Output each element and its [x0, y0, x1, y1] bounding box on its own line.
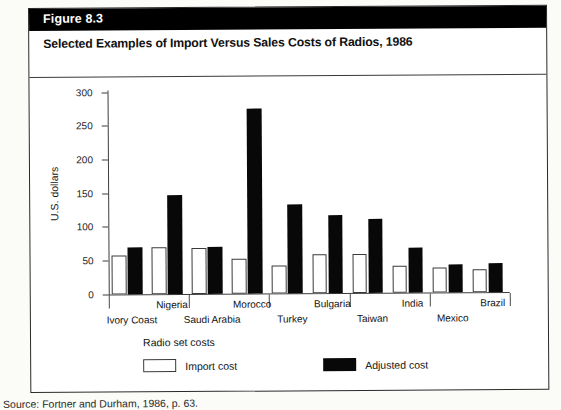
figure-title: Selected Examples of Import Versus Sales…: [43, 34, 493, 52]
legend-item-import: Import cost: [143, 359, 237, 373]
y-tick-50: 50: [103, 261, 109, 262]
y-tick-label: 100: [77, 221, 94, 232]
bar-nigeria-import: [152, 247, 167, 294]
x-label-taiwan: Taiwan: [357, 313, 388, 324]
group-separator: [510, 293, 511, 306]
figure-number-label: Figure 8.3: [43, 12, 103, 26]
source-caption: Source: Fortner and Durham, 1986, p. 63.: [3, 397, 198, 410]
bar-india-import: [392, 265, 407, 292]
x-label-mexico: Mexico: [437, 312, 469, 323]
y-tick-label: 200: [76, 154, 93, 165]
x-label-morocco: Morocco: [233, 299, 271, 310]
bar-nigeria-adjusted: [167, 195, 182, 294]
y-tick-label: 0: [88, 289, 94, 300]
group-separator: [430, 294, 431, 307]
bar-mexico-adjusted: [448, 264, 463, 292]
legend-label-import: Import cost: [185, 359, 237, 371]
chart-legend: Radio set costs Import cost Adjusted cos…: [143, 335, 428, 373]
group-separator: [189, 295, 190, 308]
y-tick-100: 100: [102, 227, 108, 228]
x-label-bulgaria: Bulgaria: [314, 298, 351, 309]
legend-label-adjusted: Adjusted cost: [365, 358, 428, 370]
bar-taiwan-adjusted: [368, 218, 383, 292]
figure-box: Figure 8.3 Selected Examples of Import V…: [28, 5, 549, 393]
bar-ivory-coast-import: [112, 256, 127, 294]
y-axis-title: U.S. dollars: [48, 166, 60, 220]
x-label-turkey: Turkey: [277, 313, 307, 324]
x-label-india: India: [402, 298, 424, 309]
legend-swatch-adjusted-icon: [323, 358, 356, 371]
y-tick-label: 150: [76, 188, 93, 199]
bar-brazil-adjusted: [488, 264, 503, 292]
figure-page: Figure 8.3 Selected Examples of Import V…: [0, 0, 561, 410]
bar-saudi-arabia-import: [192, 248, 207, 294]
bar-bulgaria-adjusted: [328, 215, 343, 293]
y-tick-label: 250: [76, 120, 93, 131]
group-separator: [109, 296, 110, 309]
x-label-brazil: Brazil: [480, 297, 505, 308]
bar-taiwan-import: [352, 254, 367, 292]
y-tick-200: 200: [102, 160, 108, 161]
figure-header-bar: [29, 6, 546, 31]
y-tick-150: 150: [102, 193, 108, 194]
bar-saudi-arabia-adjusted: [208, 246, 223, 293]
x-label-saudi-arabia: Saudi Arabia: [184, 314, 241, 325]
legend-item-adjusted: Adjusted cost: [323, 358, 428, 372]
bar-brazil-import: [472, 269, 487, 292]
bar-morocco-import: [232, 259, 247, 293]
bar-mexico-import: [432, 267, 447, 292]
bar-india-adjusted: [408, 247, 423, 292]
bar-turkey-adjusted: [288, 204, 303, 293]
chart-area: U.S. dollars 050100150200250300 Ivory Co…: [29, 76, 550, 392]
bar-turkey-import: [272, 266, 287, 294]
y-tick-label: 50: [82, 255, 93, 266]
x-axis-labels: Ivory CoastNigeriaSaudi ArabiaMoroccoTur…: [108, 88, 509, 150]
y-tick-label: 300: [76, 87, 93, 98]
bar-ivory-coast-adjusted: [127, 247, 142, 294]
legend-swatch-import-icon: [143, 359, 176, 372]
legend-title: Radio set costs: [143, 335, 428, 349]
legend-items: Import cost Adjusted cost: [143, 358, 428, 373]
bar-bulgaria-import: [312, 255, 327, 293]
x-label-nigeria: Nigeria: [156, 299, 188, 310]
legend-spacer: [237, 365, 323, 366]
x-label-ivory-coast: Ivory Coast: [107, 314, 158, 325]
